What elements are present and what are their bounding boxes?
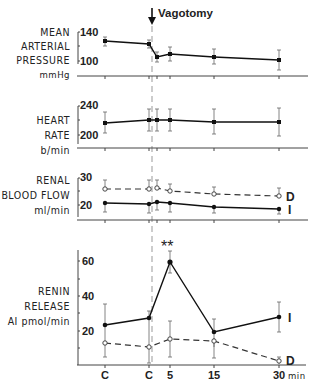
renin-label-2: RELEASE [24, 300, 70, 312]
renin-tick-60: 60 [82, 255, 94, 267]
renin-tick-40: 40 [82, 290, 94, 302]
map-label-units: mmHg [39, 69, 70, 80]
hr-tick-240: 240 [80, 99, 98, 111]
map-line [105, 41, 279, 60]
significance-marker: ** [161, 238, 173, 255]
hr-label-2: RATE [44, 129, 70, 141]
renin-legend-d: D [286, 354, 295, 368]
renin-label-1: RENIN [38, 285, 70, 297]
vagotomy-label: Vagotomy [158, 7, 214, 19]
rbf-line-i [105, 202, 279, 209]
renin-label-units: AI pmol/min [8, 315, 70, 327]
rbf-label-1: RENAL [36, 174, 70, 186]
hr-tick-200: 200 [80, 129, 98, 141]
rbf-line-d [105, 188, 279, 196]
renin-line-i [105, 262, 279, 332]
hr-label-1: HEART [36, 114, 70, 126]
vagotomy-annotation: Vagotomy [148, 7, 214, 25]
renin-line-d [105, 339, 279, 361]
hr-label-units: b/min [41, 144, 71, 156]
panel-hr: HEART RATE b/min 240 200 [36, 99, 308, 156]
rbf-label-2: BLOOD FLOW [1, 189, 70, 201]
panel-map: MEAN ARTERIAL PRESSURE mmHg 140 100 [16, 26, 308, 80]
rbf-legend-d: D [286, 190, 295, 204]
xtick-c2: C [145, 369, 153, 381]
renin-tick-20: 20 [82, 325, 94, 337]
renin-legend-i: I [288, 311, 291, 325]
rbf-tick-20: 20 [80, 199, 92, 211]
arrow-down-icon [148, 17, 156, 25]
map-tick-100: 100 [80, 55, 98, 67]
xtick-unit: min [288, 370, 306, 381]
map-tick-140: 140 [80, 26, 98, 38]
rbf-tick-30: 30 [80, 171, 92, 183]
panel-rbf: RENAL BLOOD FLOW ml/min 30 20 [1, 171, 308, 223]
map-label-2: ARTERIAL [21, 40, 70, 52]
xtick-30: 30 [273, 369, 285, 381]
hr-line [105, 120, 279, 123]
xtick-15: 15 [208, 369, 220, 381]
xtick-c1: C [101, 369, 109, 381]
panel-renin: RENIN RELEASE AI pmol/min 60 40 20 [8, 238, 306, 381]
rbf-label-units: ml/min [34, 204, 70, 216]
figure: Vagotomy MEAN ARTERIAL PRESSURE mmHg 140… [0, 0, 318, 386]
map-label-1: MEAN [40, 26, 70, 38]
xtick-5: 5 [167, 369, 173, 381]
map-label-3: PRESSURE [16, 54, 70, 66]
rbf-legend-i: I [288, 203, 291, 217]
